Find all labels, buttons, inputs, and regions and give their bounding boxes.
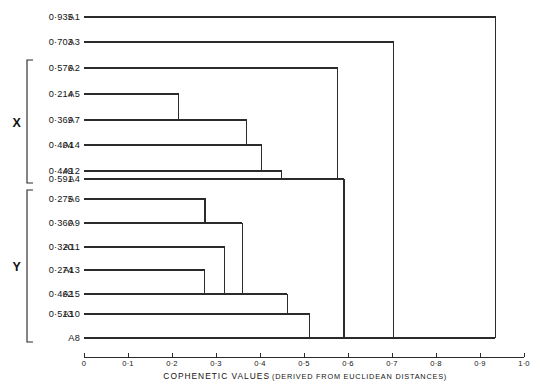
axis-tick-label-8: 0·8 [430, 359, 442, 368]
leaf-name-a11: A11 [64, 242, 80, 252]
cluster-x-label: X [13, 116, 22, 130]
merge-a2-xcluster [84, 68, 337, 179]
axis-tick-label-2: 0·2 [166, 359, 178, 368]
dendrogram-plot: 0·935A10·703A30·576A20·214A50·369A70·404… [0, 0, 540, 389]
merge-a1-root [84, 17, 495, 338]
cluster-y-bracket [27, 190, 33, 342]
axis-tick-label-10: 1·0 [518, 359, 530, 368]
axis-title-sub: (DERIVED FROM EUCLIDEAN DISTANCES) [272, 372, 447, 381]
merge-a57-a14 [178, 120, 246, 145]
axis-title-main: COPHENETIC VALUES [163, 371, 270, 381]
axis-tick-label-4: 0·4 [254, 359, 266, 368]
leaf-name-a10: A10 [63, 309, 80, 319]
dendrogram-links [84, 17, 495, 338]
merge-a13-a15 [84, 270, 205, 294]
axis-tick-label-6: 0·6 [342, 359, 354, 368]
axis-tick-label-0: 0 [82, 359, 86, 368]
leaf-name-a9: A9 [68, 218, 80, 228]
leaf-name-a5: A5 [68, 89, 80, 99]
axis-tick-label-7: 0·7 [386, 359, 398, 368]
merge-a571412-a4 [262, 171, 282, 179]
axis-tick-label-9: 0·9 [474, 359, 486, 368]
merge-a6-a9 [84, 199, 205, 223]
x-axis: 00·10·20·30·40·50·60·70·80·91·0 [82, 353, 530, 368]
leaf-name-a8: A8 [68, 333, 80, 343]
leaf-name-a7: A7 [68, 115, 80, 125]
axis-title-group: COPHENETIC VALUES (DERIVED FROM EUCLIDEA… [163, 371, 447, 381]
cluster-brackets: XY [13, 60, 33, 342]
leaf-name-a1: A1 [68, 12, 80, 22]
dendrogram-figure: 0·935A10·703A30·576A20·214A50·369A70·404… [0, 0, 540, 389]
leaf-name-a6: A6 [68, 194, 80, 204]
merge-a5-a7 [84, 94, 178, 120]
merge-a5714-a12 [246, 145, 261, 171]
leaf-name-a4: A4 [68, 174, 80, 184]
axis-tick-label-1: 0·1 [122, 359, 134, 368]
axis-tick-label-3: 0·3 [210, 359, 222, 368]
leaf-name-a14: A14 [63, 140, 80, 150]
leaf-name-a3: A3 [68, 37, 80, 47]
leaf-label-group: 0·935A10·703A30·576A20·214A50·369A70·404… [49, 12, 80, 343]
cluster-x-bracket [27, 60, 33, 183]
leaf-name-a15: A15 [63, 289, 80, 299]
leaf-name-a13: A13 [63, 265, 80, 275]
cluster-y-label: Y [13, 260, 22, 274]
axis-tick-label-5: 0·5 [298, 359, 310, 368]
leaf-name-a2: A2 [68, 63, 80, 73]
